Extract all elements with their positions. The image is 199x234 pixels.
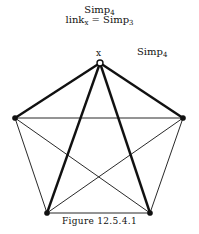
simplex-graph [0, 0, 199, 234]
edge-x-bottom-left [47, 63, 100, 213]
edge-right-bottom-left [47, 118, 183, 213]
edge-x-right [100, 63, 183, 118]
vertex-bottom-right [147, 210, 152, 215]
edge-x-left [15, 63, 100, 118]
graph-name-subscript: 4 [163, 51, 167, 59]
graph-name-label: Simp4 [137, 46, 167, 57]
edge-left-bottom-right [15, 118, 150, 213]
edge-left-bottom-left [15, 118, 47, 213]
vertex-x-label: x [96, 48, 101, 59]
edge-x-bottom-right [100, 63, 150, 213]
vertex-bottom-left [44, 210, 49, 215]
edge-right-bottom-right [150, 118, 183, 213]
vertex-x [97, 60, 103, 66]
vertex-right [180, 115, 185, 120]
figure-caption: Figure 12.5.4.1 [0, 216, 199, 226]
vertex-left [12, 115, 17, 120]
graph-name-text: Simp [137, 46, 163, 57]
